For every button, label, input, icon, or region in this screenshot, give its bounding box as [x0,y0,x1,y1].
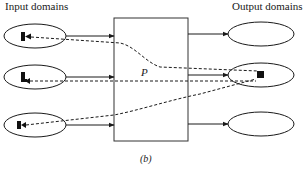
process-label: P [141,66,148,78]
output-domain-3 [228,112,294,136]
output-marker-square-icon [257,71,264,78]
input-marker-icon [17,121,26,129]
output-domain-1 [228,22,294,46]
process-box [114,18,188,141]
input-marker-icon [21,32,31,41]
input-domain-2 [4,65,66,89]
input-domain-3 [4,113,66,137]
input-marker-icon [21,72,30,84]
input-domain-1 [4,24,66,48]
domain-mapping-diagram [0,0,303,172]
figure-caption: (b) [140,153,152,164]
